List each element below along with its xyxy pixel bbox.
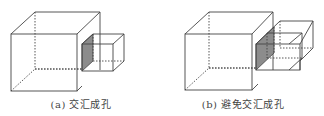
panel-b-avoid-intersecting-holes: (b) 避免交汇成孔 [162,0,324,116]
panel-a-intersecting-holes: (a) 交汇成孔 [0,0,162,116]
caption-a: (a) 交汇成孔 [0,96,162,111]
caption-b: (b) 避免交汇成孔 [162,96,324,111]
